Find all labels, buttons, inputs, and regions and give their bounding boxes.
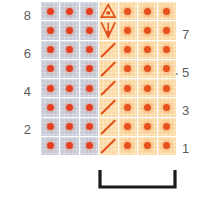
cell-dot-marker	[86, 46, 93, 53]
heatmap-cell	[138, 21, 156, 39]
cell-dot-marker	[47, 65, 54, 72]
cell-dot-marker	[47, 8, 54, 15]
heatmap-cell	[119, 137, 137, 155]
cell-dot-marker	[66, 8, 73, 15]
axis-label-left-6: 6	[24, 47, 31, 60]
heatmap-cell	[138, 41, 156, 59]
cell-slash-marker	[99, 41, 117, 59]
cell-dot-marker	[86, 27, 93, 34]
heatmap-cell	[99, 137, 117, 155]
cell-triangle-dot-marker	[99, 2, 117, 20]
cell-dot-marker	[86, 123, 93, 130]
cell-dot-marker	[144, 65, 151, 72]
cell-dot-marker	[47, 104, 54, 111]
heatmap-cell	[60, 98, 78, 116]
axis-label-right-5: 5	[182, 66, 189, 79]
heatmap-cell	[41, 41, 59, 59]
cell-dot-marker	[124, 8, 131, 15]
heatmap-cell	[158, 98, 176, 116]
axis-label-left-4: 4	[24, 85, 31, 98]
cell-dot-marker	[47, 46, 54, 53]
cell-slash-marker	[99, 118, 117, 136]
heatmap-cell	[119, 2, 137, 20]
heatmap-cell	[99, 118, 117, 136]
heatmap-cell	[138, 118, 156, 136]
cell-dot-marker	[66, 85, 73, 92]
cell-dot-marker	[124, 46, 131, 53]
cell-dot-marker	[163, 65, 170, 72]
figure-canvas: 8 6 4 2 7 5 3 1	[0, 0, 209, 198]
heatmap-cell	[99, 60, 117, 78]
heatmap-cell	[119, 21, 137, 39]
heatmap-cell	[41, 21, 59, 39]
cell-dot-marker	[47, 85, 54, 92]
heatmap-cell	[80, 98, 98, 116]
cell-slash-marker	[99, 60, 117, 78]
heatmap-cell	[80, 118, 98, 136]
heatmap-cell	[158, 137, 176, 155]
cell-dot-marker	[144, 123, 151, 130]
heatmap-cell	[41, 98, 59, 116]
heatmap-cell	[158, 60, 176, 78]
cell-dot-marker	[86, 65, 93, 72]
heatmap-cell	[60, 137, 78, 155]
heatmap-cell	[41, 79, 59, 97]
axis-tick-dot	[176, 73, 178, 75]
heatmap-cell	[80, 2, 98, 20]
heatmap-cell	[158, 118, 176, 136]
cell-dot-marker	[66, 142, 73, 149]
cell-dot-marker	[144, 46, 151, 53]
cell-dot-marker	[86, 104, 93, 111]
heatmap-cell	[138, 79, 156, 97]
cell-dot-marker	[66, 65, 73, 72]
heatmap-cell	[80, 137, 98, 155]
heatmap-cell	[41, 137, 59, 155]
heatmap-cell	[80, 41, 98, 59]
cell-dot-marker	[66, 104, 73, 111]
axis-label-left-2: 2	[24, 123, 31, 136]
cell-down-arrow-marker	[99, 21, 117, 39]
cell-dot-marker	[124, 85, 131, 92]
cell-dot-marker	[163, 85, 170, 92]
heatmap-cell	[41, 60, 59, 78]
heatmap-cell	[41, 2, 59, 20]
heatmap-cell	[138, 60, 156, 78]
cell-dot-marker	[144, 8, 151, 15]
axis-label-left-8: 8	[24, 9, 31, 22]
cell-dot-marker	[66, 27, 73, 34]
heatmap-cell	[80, 79, 98, 97]
cell-dot-marker	[124, 123, 131, 130]
heatmap-cell	[138, 2, 156, 20]
heatmap-cell	[158, 79, 176, 97]
cell-dot-marker	[163, 46, 170, 53]
heatmap-cell	[60, 79, 78, 97]
heatmap-cell	[60, 41, 78, 59]
heatmap-grid	[41, 2, 176, 155]
cell-dot-marker	[124, 27, 131, 34]
cell-dot-marker	[144, 142, 151, 149]
cell-dot-marker	[163, 8, 170, 15]
heatmap-cell	[119, 41, 137, 59]
cell-dot-marker	[163, 142, 170, 149]
cell-dot-marker	[144, 104, 151, 111]
heatmap-cell	[80, 60, 98, 78]
heatmap-cell	[119, 60, 137, 78]
heatmap-cell	[158, 2, 176, 20]
heatmap-cell	[119, 118, 137, 136]
heatmap-cell	[99, 21, 117, 39]
cell-dot-marker	[47, 27, 54, 34]
axis-label-right-1: 1	[182, 142, 189, 155]
heatmap-cell	[99, 98, 117, 116]
heatmap-cell	[60, 21, 78, 39]
cell-slash-marker	[99, 98, 117, 116]
heatmap-cell	[80, 21, 98, 39]
cell-dot-marker	[66, 123, 73, 130]
heatmap-cell	[99, 79, 117, 97]
bottom-bracket	[98, 170, 177, 189]
axis-label-right-7: 7	[182, 28, 189, 41]
cell-slash-marker	[99, 79, 117, 97]
cell-dot-marker	[86, 8, 93, 15]
cell-slash-marker	[99, 137, 117, 155]
cell-dot-marker	[124, 104, 131, 111]
cell-dot-marker	[163, 123, 170, 130]
